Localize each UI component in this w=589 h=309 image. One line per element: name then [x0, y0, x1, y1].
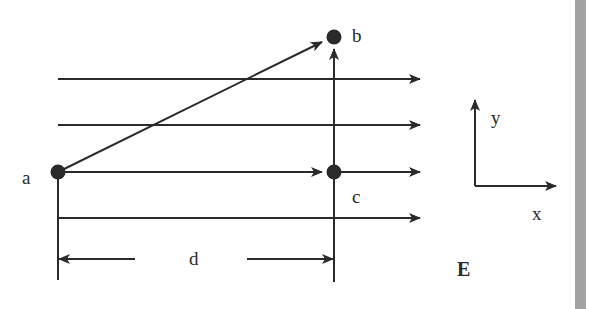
point-a: [51, 165, 66, 180]
label-a: a: [22, 167, 31, 188]
label-distance-d: d: [189, 248, 199, 269]
label-field-e: E: [457, 258, 470, 280]
label-c: c: [352, 186, 360, 207]
coordinate-axes: [475, 100, 556, 186]
field-lines: [58, 79, 420, 218]
label-b: b: [352, 25, 362, 46]
point-b: [327, 30, 342, 45]
point-c: [327, 165, 342, 180]
label-x-axis: x: [532, 203, 542, 224]
path-a-to-b: [58, 42, 322, 172]
side-bar: [575, 0, 586, 309]
label-y-axis: y: [491, 107, 501, 128]
